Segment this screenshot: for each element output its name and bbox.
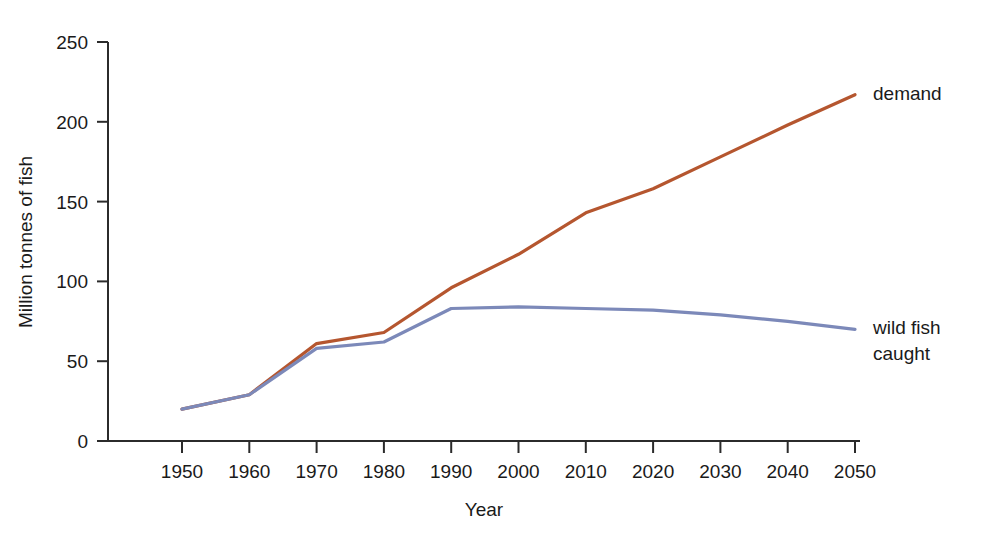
y-tick-label: 150 <box>56 192 88 213</box>
x-tick-label: 2000 <box>497 461 539 482</box>
series-label-demand: demand <box>873 83 942 104</box>
y-axis-title: Million tonnes of fish <box>15 156 36 328</box>
series-label-wild-fish-caught: caught <box>873 343 931 364</box>
fish-demand-line-chart: 050100150200250 195019601970198019902000… <box>0 0 983 551</box>
series-line-wild-fish-caught <box>182 307 855 409</box>
y-tick-label: 0 <box>77 431 88 452</box>
x-axis-title: Year <box>465 499 504 520</box>
x-tick-label: 1990 <box>430 461 472 482</box>
x-tick-label: 1980 <box>363 461 405 482</box>
x-tick-label: 2030 <box>699 461 741 482</box>
series-label-group: demandwild fishcaught <box>872 83 942 365</box>
chart-page: 050100150200250 195019601970198019902000… <box>0 0 983 551</box>
series-label-wild-fish-caught: wild fish <box>872 317 941 338</box>
x-tick-label: 1950 <box>161 461 203 482</box>
y-tick-label: 50 <box>67 351 88 372</box>
y-tick-group <box>97 42 108 441</box>
x-tick-label: 2010 <box>565 461 607 482</box>
y-tick-label: 250 <box>56 32 88 53</box>
series-line-demand <box>182 95 855 409</box>
x-tick-label: 1960 <box>228 461 270 482</box>
x-tick-label: 2040 <box>767 461 809 482</box>
x-tick-label-group: 1950196019701980199020002010202020302040… <box>161 461 876 482</box>
series-group <box>182 95 855 409</box>
x-tick-group <box>182 441 855 453</box>
x-tick-label: 2050 <box>834 461 876 482</box>
y-tick-label: 200 <box>56 112 88 133</box>
x-tick-label: 2020 <box>632 461 674 482</box>
y-tick-label: 100 <box>56 271 88 292</box>
x-tick-label: 1970 <box>295 461 337 482</box>
y-tick-label-group: 050100150200250 <box>56 32 88 452</box>
